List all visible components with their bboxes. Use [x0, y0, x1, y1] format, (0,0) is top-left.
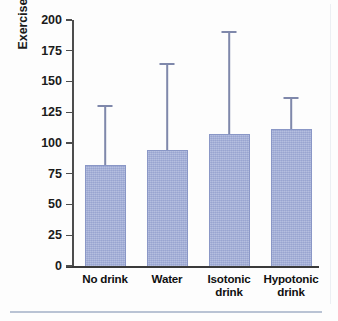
y-axis-tick: 150	[66, 81, 72, 82]
y-axis-tick: 0	[66, 265, 72, 266]
y-axis-tick-label: 150	[41, 74, 62, 88]
x-axis-category-label: Isotonic drink	[208, 272, 251, 298]
x-axis-category-label: No drink	[82, 272, 127, 285]
y-axis-tick: 125	[66, 112, 72, 113]
error-bar-stem	[290, 97, 292, 129]
y-axis-tick: 50	[66, 204, 72, 205]
bar	[209, 134, 250, 266]
y-axis-tick-label: 100	[41, 136, 62, 150]
error-bar-cap	[98, 105, 113, 107]
plot-area: 0255075100125150175200No drinkWaterIsoto…	[72, 20, 320, 266]
page-separator-rule	[10, 311, 322, 313]
x-axis-category-label: Water	[152, 272, 183, 285]
y-axis-tick: 200	[66, 19, 72, 20]
error-bar-stem	[104, 105, 106, 165]
x-axis-category-label: Hypotonic drink	[264, 272, 319, 298]
error-bar-stem	[166, 63, 168, 150]
page-edge-rule	[330, 4, 331, 304]
error-bar-cap	[160, 63, 175, 65]
y-axis-tick-label: 200	[41, 13, 62, 27]
bar-chart-figure: Exercise time (min) 02550751001251501752…	[0, 0, 338, 321]
error-bar-cap	[284, 97, 299, 99]
y-axis-tick-label: 125	[41, 105, 62, 119]
y-axis-line	[72, 20, 74, 266]
bar	[271, 129, 312, 266]
y-axis-tick: 175	[66, 50, 72, 51]
bar	[85, 165, 126, 266]
x-axis-line	[66, 266, 319, 268]
y-axis-tick-label: 25	[48, 228, 62, 242]
bar	[147, 150, 188, 266]
y-axis-tick: 25	[66, 235, 72, 236]
y-axis-tick-label: 0	[55, 259, 62, 273]
error-bar-cap	[222, 31, 237, 33]
y-axis-tick-label: 175	[41, 44, 62, 58]
y-axis-tick: 100	[66, 142, 72, 143]
error-bar-stem	[228, 31, 230, 134]
y-axis-tick-label: 50	[48, 197, 62, 211]
y-axis-tick: 75	[66, 173, 72, 174]
y-axis-tick-label: 75	[48, 167, 62, 181]
y-axis-title: Exercise time (min)	[14, 0, 32, 78]
